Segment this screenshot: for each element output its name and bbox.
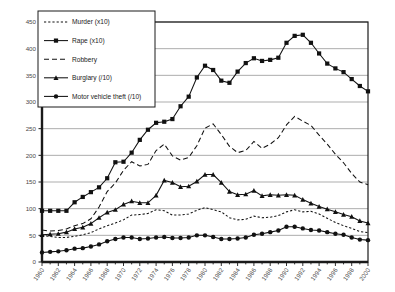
data-point	[333, 232, 337, 236]
y-tick-label: 100	[26, 205, 37, 212]
data-point	[293, 34, 297, 38]
data-point	[358, 237, 362, 241]
data-point	[276, 228, 280, 232]
x-tick-label: 1966	[81, 266, 95, 282]
data-point	[56, 209, 60, 213]
data-point	[284, 41, 288, 45]
data-point	[366, 89, 370, 93]
x-tick-label: 1964	[64, 266, 78, 282]
x-tick-label: 1998	[341, 266, 355, 282]
y-tick-label: 450	[26, 18, 37, 25]
y-tick-label: 300	[26, 98, 37, 105]
data-point	[138, 237, 142, 241]
legend-label: Rape (x10)	[72, 37, 105, 45]
x-tick-label: 1986	[244, 266, 258, 282]
data-point	[72, 246, 76, 250]
series-4	[40, 225, 370, 255]
data-point	[284, 225, 288, 229]
data-point	[56, 249, 60, 253]
x-tick-label: 1988	[260, 266, 274, 282]
legend-label: Motor vehicle theft (/10)	[72, 93, 141, 101]
data-point	[48, 209, 52, 213]
x-tick-label: 1970	[113, 266, 127, 282]
data-point	[170, 236, 174, 240]
data-point	[366, 238, 370, 242]
data-point	[276, 56, 280, 60]
x-tick-label: 1972	[129, 266, 143, 282]
x-tick-label: 2000	[358, 266, 372, 282]
x-tick-label: 1980	[195, 266, 209, 282]
chart-legend: Murder (x10)Rape (x10)RobberyBurglary (/…	[38, 11, 155, 107]
x-tick-label: 1982	[211, 266, 225, 282]
data-point	[129, 199, 134, 204]
data-point	[219, 237, 223, 241]
data-point	[121, 160, 125, 164]
data-point	[252, 56, 256, 60]
data-point	[89, 190, 93, 194]
data-point	[252, 233, 256, 237]
x-tick-label: 1968	[97, 266, 111, 282]
data-point	[97, 242, 101, 246]
data-point	[268, 58, 272, 62]
data-point	[97, 215, 102, 220]
data-point	[178, 104, 182, 108]
data-point	[195, 233, 199, 237]
x-tick-label: 1978	[178, 266, 192, 282]
data-point	[317, 51, 321, 55]
data-point	[227, 237, 231, 241]
data-point	[350, 77, 354, 81]
chart-canvas: 0501001502002503003504004501960196219641…	[0, 0, 395, 292]
legend-label: Robbery	[72, 56, 98, 64]
data-point	[40, 250, 44, 254]
data-point	[73, 200, 77, 204]
data-point	[227, 81, 231, 85]
data-point	[54, 94, 58, 98]
data-point	[211, 68, 215, 72]
data-point	[40, 209, 44, 213]
data-point	[187, 235, 191, 239]
data-point	[113, 160, 117, 164]
data-point	[301, 33, 305, 37]
data-point	[81, 246, 85, 250]
data-point	[350, 235, 354, 239]
data-point	[154, 193, 159, 198]
data-point	[317, 228, 321, 232]
data-point	[146, 128, 150, 132]
x-tick-label: 1990	[276, 266, 290, 282]
x-tick-label: 1974	[146, 266, 160, 282]
data-point	[130, 151, 134, 155]
data-point	[154, 235, 158, 239]
data-point	[162, 235, 166, 239]
x-tick-label: 1984	[227, 266, 241, 282]
data-point	[64, 248, 68, 252]
data-point	[301, 226, 305, 230]
legend-label: Burglary (/10)	[72, 74, 112, 82]
data-point	[113, 237, 117, 241]
y-tick-label: 250	[26, 125, 37, 132]
y-tick-label: 200	[26, 152, 37, 159]
data-point	[113, 207, 118, 212]
data-point	[138, 138, 142, 142]
data-point	[121, 235, 125, 239]
x-tick-label: 1960	[32, 266, 46, 282]
data-point	[235, 236, 239, 240]
x-tick-label: 1992	[292, 266, 306, 282]
data-point	[178, 236, 182, 240]
data-point	[300, 197, 305, 202]
data-point	[187, 95, 191, 99]
y-tick-label: 50	[29, 232, 36, 239]
data-point	[357, 218, 362, 223]
data-point	[195, 75, 199, 79]
data-point	[129, 235, 133, 239]
data-point	[81, 195, 85, 199]
data-point	[170, 117, 174, 121]
data-point	[154, 121, 158, 125]
data-point	[260, 232, 264, 236]
y-tick-label: 0	[33, 258, 37, 265]
data-point	[236, 70, 240, 74]
y-tick-label: 150	[26, 178, 37, 185]
crime-rate-line-chart: 0501001502002503003504004501960196219641…	[0, 0, 395, 292]
data-point	[54, 39, 58, 43]
data-point	[97, 185, 101, 189]
data-point	[64, 209, 68, 213]
